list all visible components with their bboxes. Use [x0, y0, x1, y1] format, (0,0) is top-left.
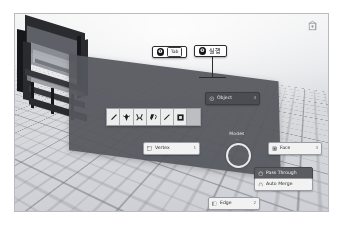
callout-step-2: ❷ 실행 — [194, 45, 227, 57]
view-gizmo[interactable] — [306, 20, 319, 33]
face-select-icon — [272, 146, 278, 152]
pie-item-face[interactable]: Face 3 — [268, 142, 322, 155]
callout-step-2-number: ❷ — [199, 47, 207, 55]
tool-mask[interactable] — [174, 109, 187, 125]
pie-item-object-label: Object — [217, 96, 248, 101]
callout-connector-horizontal — [199, 77, 226, 78]
pie-item-vertex-key: 1 — [193, 146, 196, 150]
tool-soften[interactable] — [120, 109, 133, 125]
pie-item-object[interactable]: Object 4 — [205, 92, 260, 105]
pie-item-object-key: 4 — [253, 96, 256, 100]
brush-mask-icon — [176, 113, 185, 122]
pie-item-vertex-label: Vertex — [155, 146, 188, 151]
callout-step-1-keycap: Tab — [167, 47, 182, 56]
tool-fill[interactable] — [161, 109, 174, 125]
tool-draw[interactable] — [107, 109, 120, 125]
toggle-auto-merge-label: Auto Merge — [266, 182, 309, 187]
pie-menu-subtitle: — — [217, 137, 257, 141]
pie-item-edge-label: Edge — [220, 201, 248, 206]
callout-step-2-text: 실행 — [209, 48, 222, 54]
brush-fill-icon — [162, 113, 171, 122]
pie-item-edge[interactable]: Edge 2 — [208, 197, 260, 210]
callout-step-1: ❶ Tab — [152, 46, 187, 58]
pie-item-face-key: 3 — [315, 146, 318, 150]
pie-menu-title-text: Modes — [229, 131, 244, 136]
toggle-pass-through-label: Pass Through — [266, 171, 309, 176]
callout-step-1-number: ❶ — [157, 48, 165, 56]
tool-clone[interactable] — [147, 109, 160, 125]
pie-menu-center-ring[interactable] — [226, 143, 251, 168]
brush-draw-icon — [109, 113, 118, 122]
pie-menu-title: Modes — — [217, 131, 257, 141]
toggle-auto-merge[interactable]: Auto Merge — [254, 178, 313, 191]
viewport-3d[interactable]: Modes — Object 4 Vertex 1 — [14, 13, 329, 212]
tool-empty-slot[interactable] — [187, 109, 199, 125]
vertex-select-icon — [147, 146, 153, 152]
xray-icon — [258, 171, 264, 177]
magnet-icon — [258, 182, 264, 188]
screenshot-root: Modes — Object 4 Vertex 1 — [0, 0, 343, 225]
view-gizmo-icon — [306, 20, 319, 33]
brush-soften-icon — [122, 113, 131, 122]
brush-clone-icon — [149, 113, 158, 122]
brush-smear-icon — [135, 113, 144, 122]
object-mode-icon — [209, 96, 215, 102]
pie-item-face-label: Face — [280, 146, 310, 151]
brush-toolbar[interactable] — [106, 108, 201, 126]
tool-smear[interactable] — [134, 109, 147, 125]
pie-item-edge-key: 2 — [253, 201, 256, 205]
pie-item-vertex[interactable]: Vertex 1 — [143, 142, 200, 155]
edge-select-icon — [212, 201, 218, 207]
callout-connector-vertical — [212, 57, 213, 78]
